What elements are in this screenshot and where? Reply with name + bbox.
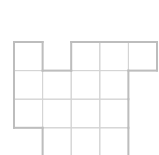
grid-cell [128,42,157,71]
grid-cell [43,99,72,128]
grid-cell [14,42,43,71]
grid-cell [14,71,43,100]
grid-shape-diagram [0,0,159,155]
grid-cell [14,99,43,128]
grid-cell [100,71,129,100]
grid-cell [71,42,100,71]
grid-cell [71,99,100,128]
grid-cell [71,71,100,100]
grid-cell [100,128,129,155]
grid-cell [100,42,129,71]
grid-cell [43,71,72,100]
grid-cell [43,128,72,155]
grid-cell [71,128,100,155]
grid-cell [100,99,129,128]
